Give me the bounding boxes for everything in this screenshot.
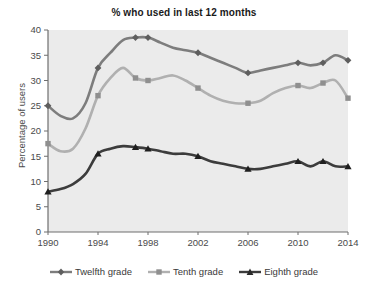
y-tick-label: 25 (30, 100, 41, 111)
y-tick-label: 20 (30, 125, 41, 136)
x-tick-label: 2010 (287, 237, 308, 248)
chart-plot: 0510152025303540 19901994199820022006201… (0, 0, 368, 287)
legend-item-tenth-grade[interactable]: Tenth grade (148, 266, 223, 277)
data-point-marker (133, 75, 138, 80)
y-tick-label: 0 (36, 226, 41, 237)
triangle-marker-icon (239, 267, 261, 277)
square-marker-icon (148, 267, 170, 277)
y-tick-label: 10 (30, 176, 41, 187)
y-axis-ticks: 0510152025303540 (30, 24, 48, 237)
plot-background (48, 30, 348, 232)
diamond-marker-icon (50, 267, 72, 277)
data-point-marker (245, 101, 250, 106)
legend-item-twelfth-grade[interactable]: Twelfth grade (50, 266, 132, 277)
data-point-marker (320, 80, 325, 85)
x-tick-label: 1998 (137, 237, 158, 248)
y-tick-label: 30 (30, 75, 41, 86)
y-tick-label: 5 (36, 201, 41, 212)
x-tick-label: 1990 (37, 237, 58, 248)
chart-legend: Twelfth grade Tenth grade Eighth grade (0, 266, 368, 277)
chart-container: % who used in last 12 months Percentage … (0, 0, 368, 287)
y-tick-label: 40 (30, 24, 41, 35)
data-point-marker (95, 93, 100, 98)
legend-label: Eighth grade (264, 266, 318, 277)
legend-item-eighth-grade[interactable]: Eighth grade (239, 266, 318, 277)
data-point-marker (345, 95, 350, 100)
data-point-marker (195, 85, 200, 90)
x-axis-ticks: 1990199419982002200620102014 (37, 232, 358, 248)
x-tick-label: 1994 (87, 237, 108, 248)
data-point-marker (145, 78, 150, 83)
data-point-marker (295, 83, 300, 88)
legend-label: Tenth grade (173, 266, 223, 277)
y-tick-label: 15 (30, 151, 41, 162)
y-tick-label: 35 (30, 50, 41, 61)
x-tick-label: 2006 (237, 237, 258, 248)
legend-label: Twelfth grade (75, 266, 132, 277)
x-tick-label: 2014 (337, 237, 358, 248)
data-point-marker (45, 141, 50, 146)
x-tick-label: 2002 (187, 237, 208, 248)
